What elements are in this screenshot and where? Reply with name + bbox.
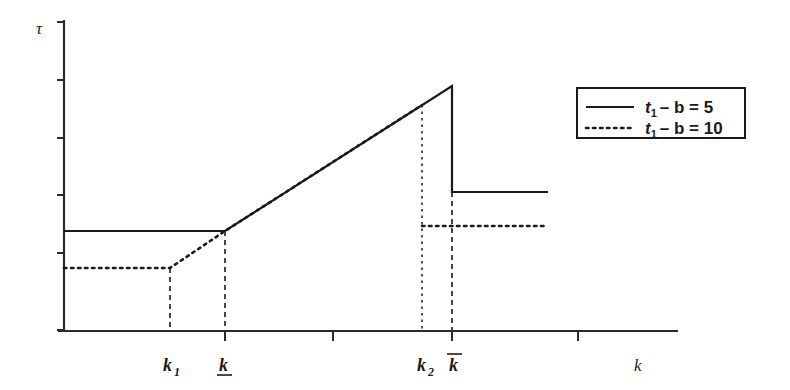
tax-schedule-chart: τ k k 1 k k 2 k t1– b = 5 t1– b = (0, 0, 790, 390)
x-label-k-under-base: k (219, 355, 228, 375)
legend-label-2-rest: – b = 10 (660, 119, 723, 138)
x-axis-title: k (634, 356, 642, 375)
x-label-k1-base: k (163, 355, 172, 375)
x-label-k-bar-base: k (449, 355, 458, 375)
x-label-k2-base: k (417, 355, 426, 375)
legend-label-2-sub: 1 (651, 128, 657, 140)
legend: t1– b = 5 t1– b = 10 (577, 88, 745, 140)
legend-label-1-rest: – b = 5 (660, 98, 713, 117)
x-label-k1-subscript: 1 (174, 365, 180, 379)
legend-label-1-sub: 1 (651, 107, 657, 119)
x-label-k2-subscript: 2 (427, 365, 434, 379)
y-axis-title: τ (36, 19, 43, 38)
